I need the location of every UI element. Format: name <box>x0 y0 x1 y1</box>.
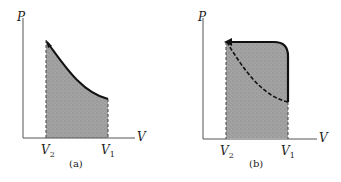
caption-a: (a) <box>69 158 83 169</box>
v1-label-a: V1 <box>101 143 115 159</box>
p-axis-label-b: P <box>197 10 207 24</box>
panel-b: P V V2 V1 (b) <box>197 10 329 169</box>
panel-a: P V V2 V1 (a) <box>16 10 147 169</box>
caption-b: (b) <box>249 158 263 169</box>
p-axis-label-a: P <box>16 10 26 24</box>
v-axis-label-a: V <box>137 130 147 144</box>
v-axis-label-b: V <box>319 131 329 145</box>
v1-label-b: V1 <box>281 144 295 160</box>
shaded-area-b <box>226 42 288 138</box>
v2-label-a: V2 <box>41 143 55 159</box>
pv-diagrams: P V V2 V1 (a) P V V2 V1 (b) <box>0 0 341 182</box>
v2-label-b: V2 <box>220 144 234 160</box>
